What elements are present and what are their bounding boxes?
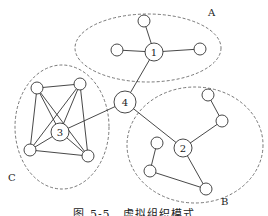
node-b1 <box>202 89 214 101</box>
node-n3: 3 <box>51 123 69 141</box>
edge-c3-c4 <box>30 150 88 156</box>
group-boundaries: ABC <box>8 7 263 207</box>
node-a3 <box>194 43 206 55</box>
node-a1 <box>138 15 150 27</box>
edge-c1-c2 <box>37 84 80 88</box>
node-a2 <box>111 44 123 56</box>
node-c1 <box>31 82 43 94</box>
node-c3 <box>24 144 36 156</box>
node-label: 2 <box>180 143 186 154</box>
node-label: 1 <box>151 47 157 58</box>
node-n4: 4 <box>114 91 136 113</box>
nodes: 1234 <box>24 15 228 195</box>
group-c-label: C <box>8 172 16 183</box>
node-b2 <box>216 115 228 127</box>
node-label: 4 <box>122 97 128 108</box>
node-b4 <box>144 165 156 177</box>
node-b5 <box>200 183 212 195</box>
figure-caption: 图 5-5 虚拟组织模式 <box>0 205 268 216</box>
edge-c1-c4 <box>37 88 88 156</box>
node-c2 <box>74 78 86 90</box>
node-n1: 1 <box>145 43 163 61</box>
node-label: 3 <box>57 127 63 138</box>
node-c4 <box>82 150 94 162</box>
node-n2: 2 <box>174 139 192 157</box>
virtual-organization-diagram: ABC 1234 <box>0 0 268 216</box>
node-b3 <box>151 137 163 149</box>
edge-c1-c3 <box>30 88 37 150</box>
group-a-label: A <box>207 7 216 18</box>
